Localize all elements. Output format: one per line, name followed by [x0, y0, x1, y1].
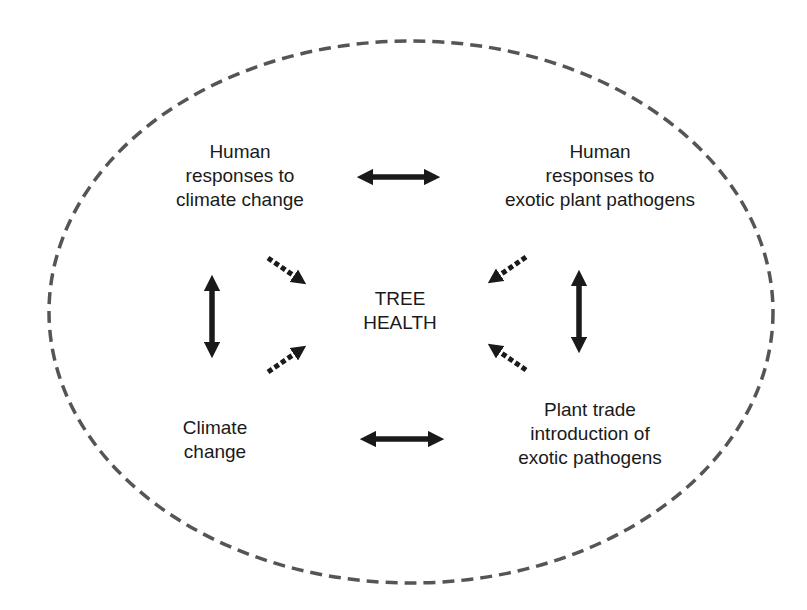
node-plant-trade: Plant trade introduction of exotic patho… — [490, 398, 690, 470]
arrow-dashed-top-right — [494, 257, 526, 279]
node-human-responses-climate: Human responses to climate change — [140, 140, 340, 212]
node-human-responses-pathogens: Human responses to exotic plant pathogen… — [480, 140, 720, 212]
arrow-dashed-top-left — [268, 258, 300, 280]
arrow-dashed-bottom-left — [268, 350, 300, 372]
arrow-dashed-bottom-right — [494, 348, 526, 370]
center-tree-health: TREE HEALTH — [340, 287, 460, 335]
node-climate-change: Climate change — [140, 416, 290, 464]
